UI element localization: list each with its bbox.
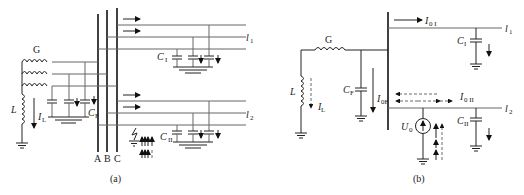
svg-text:L: L — [289, 86, 296, 97]
generator-label: G — [325, 34, 332, 45]
inductor-icon — [301, 76, 304, 106]
ground-icon — [16, 143, 28, 148]
svg-text:l: l — [505, 23, 508, 34]
ground-icon — [470, 146, 482, 151]
ground-icon — [417, 159, 429, 164]
inductor-icon — [22, 94, 25, 124]
svg-text:I: I — [464, 40, 467, 48]
svg-text:2: 2 — [509, 108, 513, 116]
inductor-label: L — [10, 104, 17, 115]
svg-text:1: 1 — [250, 37, 254, 45]
svg-text:0F: 0F — [381, 98, 389, 106]
ground-icon — [470, 64, 482, 69]
svg-text:C: C — [457, 115, 464, 126]
svg-text:II: II — [168, 136, 173, 144]
generator-label: G — [33, 44, 40, 55]
svg-text:2: 2 — [250, 114, 254, 122]
circuit-diagram: A B C G L I L — [0, 0, 524, 195]
svg-text:0: 0 — [409, 126, 413, 134]
generator-windings-icon — [22, 60, 47, 87]
svg-text:F: F — [95, 112, 99, 120]
svg-text:l: l — [246, 109, 249, 120]
svg-text:C: C — [160, 131, 167, 142]
ground-icon — [355, 116, 367, 121]
svg-text:I: I — [165, 56, 168, 64]
svg-text:U: U — [401, 121, 409, 132]
caption-b: (b) — [413, 173, 425, 185]
caption-a: (a) — [110, 173, 121, 185]
generator-winding-icon — [315, 48, 345, 51]
figure-b: G L I L C F I 0F I 0 I l 1 — [289, 12, 513, 185]
svg-text:1: 1 — [509, 28, 513, 36]
svg-text:L: L — [42, 116, 46, 124]
svg-text:l: l — [505, 103, 508, 114]
fault-ground-icon — [129, 128, 152, 158]
svg-text:C: C — [457, 35, 464, 46]
svg-text:l: l — [246, 32, 249, 43]
ground-icon — [295, 133, 307, 138]
svg-text:0 I: 0 I — [429, 20, 437, 28]
svg-text:C: C — [343, 84, 350, 95]
svg-text:C: C — [157, 51, 164, 62]
bus-label-a: A — [94, 153, 102, 164]
svg-text:II: II — [464, 120, 469, 128]
svg-text:L: L — [321, 106, 325, 114]
line-1 — [98, 19, 246, 73]
svg-text:F: F — [350, 89, 354, 97]
bus-label-b: B — [104, 153, 111, 164]
figure-a: A B C G L I L — [10, 8, 254, 185]
svg-text:C: C — [88, 107, 95, 118]
svg-text:0 II: 0 II — [464, 96, 475, 104]
generator-capacitors-icon — [47, 62, 94, 123]
bus-label-c: C — [114, 153, 121, 164]
